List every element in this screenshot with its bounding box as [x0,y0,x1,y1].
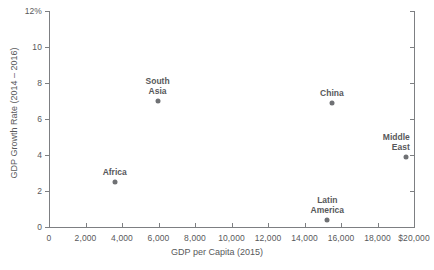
data-point-south-asia[interactable] [155,99,160,104]
x-tick-label-3: 6,000 [148,233,170,243]
x-tick-5 [232,223,233,227]
data-point-label-africa: Africa [103,167,127,177]
data-point-label-south-asia: South Asia [146,76,170,96]
x-tick-label-4: 8,000 [184,233,206,243]
x-tick-8 [341,223,342,227]
x-tick-label-2: 4,000 [111,233,133,243]
y-tick-label-6: 12% [25,6,42,16]
y-tick-label-5: 10 [32,42,42,52]
data-point-china[interactable] [329,100,334,105]
scatter-chart: 024681012% 02,0004,0006,0008,00010,00012… [0,0,434,270]
right-tick-6 [410,11,414,12]
right-axis-line [414,11,415,228]
x-tick-10 [414,223,415,227]
right-tick-3 [410,119,414,120]
x-tick-label-9: 18,000 [364,233,391,243]
x-tick-1 [86,223,87,227]
x-tick-label-7: 14,000 [291,233,318,243]
right-tick-4 [410,83,414,84]
y-tick-label-4: 8 [37,78,42,88]
plot-area: 024681012% 02,0004,0006,0008,00010,00012… [49,11,415,228]
y-tick-4 [45,83,49,84]
data-point-africa[interactable] [112,180,117,185]
data-point-label-latin-america: Latin America [311,195,345,215]
x-tick-label-10: $20,000 [398,233,429,243]
y-tick-1 [45,191,49,192]
y-tick-label-1: 2 [37,186,42,196]
y-tick-0 [45,227,49,228]
x-tick-9 [378,223,379,227]
y-tick-5 [45,47,49,48]
x-tick-7 [305,223,306,227]
y-axis-line [49,11,50,228]
x-tick-6 [268,223,269,227]
right-tick-1 [410,191,414,192]
y-tick-label-3: 6 [37,114,42,124]
y-tick-2 [45,155,49,156]
y-tick-6 [45,11,49,12]
x-tick-label-5: 10,000 [218,233,245,243]
x-axis-title: GDP per Capita (2015) [0,247,434,257]
right-tick-2 [410,155,414,156]
x-tick-label-6: 12,000 [255,233,282,243]
x-tick-label-0: 0 [47,233,52,243]
y-tick-3 [45,119,49,120]
x-tick-4 [195,223,196,227]
data-point-middle-east[interactable] [403,154,408,159]
x-tick-3 [159,223,160,227]
data-point-label-china: China [320,88,344,98]
x-tick-0 [49,223,50,227]
x-tick-label-8: 16,000 [328,233,355,243]
y-tick-label-0: 0 [37,222,42,232]
right-tick-5 [410,47,414,48]
y-axis-title: GDP Growth Rate (2014 – 2016) [9,3,19,223]
x-tick-label-1: 2,000 [75,233,97,243]
y-tick-label-2: 4 [37,150,42,160]
data-point-latin-america[interactable] [325,217,330,222]
x-axis-line [49,227,415,228]
data-point-label-middle-east: Middle East [383,132,410,152]
x-tick-2 [122,223,123,227]
